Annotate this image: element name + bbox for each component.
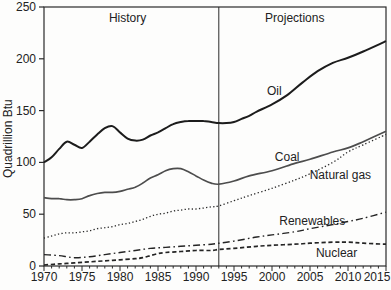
annotation-projections: Projections: [265, 11, 324, 25]
energy-consumption-chart: 0501001502002501970197519801985199019952…: [0, 0, 391, 290]
x-tick-label: 1975: [69, 270, 96, 284]
x-tick-label: 1995: [221, 270, 248, 284]
series-line-oil: [44, 41, 386, 162]
x-tick-label: 1970: [31, 270, 58, 284]
series-label-renewables: Renewables: [279, 214, 345, 228]
x-tick-label: 2010: [335, 270, 362, 284]
y-axis-title: Quadrillion Btu: [1, 99, 15, 178]
x-tick-label: 2005: [297, 270, 324, 284]
series-label-nuclear: Nuclear: [316, 246, 357, 260]
series-line-coal: [44, 131, 386, 200]
y-tick-label: 50: [23, 207, 37, 221]
annotation-history: History: [109, 11, 146, 25]
series-label-natural-gas: Natural gas: [310, 168, 371, 182]
x-tick-label: 1980: [107, 270, 134, 284]
x-tick-label: 1990: [183, 270, 210, 284]
series-label-coal: Coal: [275, 150, 300, 164]
series-label-oil: Oil: [267, 84, 282, 98]
x-tick-label: 2000: [259, 270, 286, 284]
x-tick-label: 1985: [145, 270, 172, 284]
y-tick-label: 250: [16, 0, 36, 14]
y-tick-label: 200: [16, 52, 36, 66]
figure-canvas: 0501001502002501970197519801985199019952…: [0, 0, 391, 290]
y-tick-label: 150: [16, 104, 36, 118]
y-tick-label: 100: [16, 155, 36, 169]
x-tick-label: 2015: [364, 270, 391, 284]
